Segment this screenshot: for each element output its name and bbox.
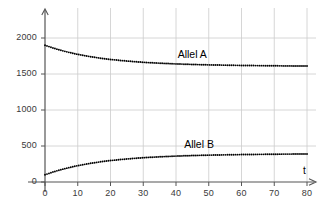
x-tick-label: 60 — [228, 188, 256, 198]
series-label-allel-b: Allel B — [184, 138, 214, 150]
y-tick-label: 500 — [0, 140, 37, 150]
y-tick-label: 1000 — [0, 104, 37, 114]
chart-container: 0500100015002000 01020304050607080 Allel… — [0, 0, 322, 209]
x-tick-label: 50 — [195, 188, 223, 198]
x-tick-label: 30 — [129, 188, 157, 198]
x-tick-label: 80 — [293, 188, 321, 198]
series-label-allel-a: Allel A — [178, 48, 207, 60]
x-tick-label: 20 — [97, 188, 125, 198]
y-tick-label: 1500 — [0, 68, 37, 78]
y-tick-label: 0 — [0, 176, 37, 186]
x-tick-label: 70 — [260, 188, 288, 198]
x-tick-label: 10 — [64, 188, 92, 198]
x-tick-label: 0 — [31, 188, 59, 198]
x-tick-label: 40 — [162, 188, 190, 198]
y-tick-label: 2000 — [0, 32, 37, 42]
x-axis-label: t — [303, 165, 306, 176]
axes — [28, 9, 316, 192]
chart-plot-area — [0, 0, 322, 209]
